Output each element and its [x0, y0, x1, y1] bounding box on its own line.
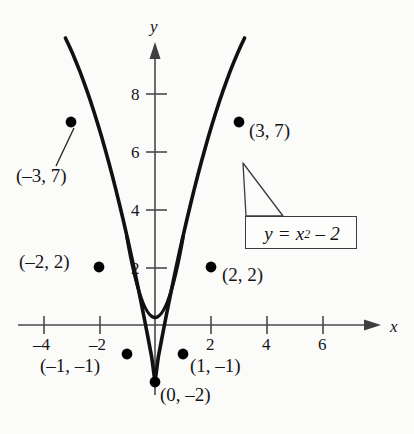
leader-line-minus3-7 — [56, 128, 74, 166]
equation-lhs: y — [264, 223, 273, 245]
data-point — [122, 349, 133, 360]
x-tick-label: –4 — [33, 336, 50, 353]
graph-figure: x y –4 –2 2 4 6 2 4 6 8 (–3, 7) (–2, 2) … — [0, 0, 414, 434]
x-axis-label: x — [390, 318, 398, 335]
data-point — [206, 262, 217, 273]
equation-rest: – 2 — [316, 223, 340, 245]
y-axis-label: y — [150, 18, 158, 35]
y-axis — [150, 42, 161, 395]
data-point — [94, 262, 105, 273]
data-point — [178, 349, 189, 360]
y-axis-ticks — [146, 94, 167, 268]
y-tick-label: 2 — [131, 260, 140, 277]
point-label-2-2: (2, 2) — [222, 265, 263, 284]
equation-equals: = — [278, 223, 291, 245]
point-label-1-minus1: (1, –1) — [190, 356, 241, 375]
x-tick-label: 2 — [206, 336, 215, 353]
data-point — [66, 117, 77, 128]
data-point — [234, 117, 245, 128]
x-tick-label: –2 — [89, 336, 106, 353]
callout-pointer — [243, 163, 283, 216]
point-label-0-minus2: (0, –2) — [160, 385, 211, 404]
point-label-minus2-2: (–2, 2) — [19, 252, 70, 271]
data-point — [150, 377, 161, 388]
x-tick-label: 4 — [262, 336, 271, 353]
x-axis — [18, 320, 381, 331]
point-label-minus1-minus1: (–1, –1) — [40, 356, 100, 375]
y-tick-label: 8 — [131, 86, 140, 103]
point-label-minus3-7: (–3, 7) — [16, 166, 67, 185]
y-tick-label: 6 — [131, 144, 140, 161]
equation-base: x — [296, 223, 305, 245]
point-label-3-7: (3, 7) — [249, 121, 290, 140]
equation-text: y = x2 – 2 — [246, 217, 358, 250]
x-tick-label: 6 — [318, 336, 327, 353]
y-tick-label: 4 — [131, 202, 140, 219]
equation-callout-box: y = x2 – 2 — [245, 216, 357, 249]
